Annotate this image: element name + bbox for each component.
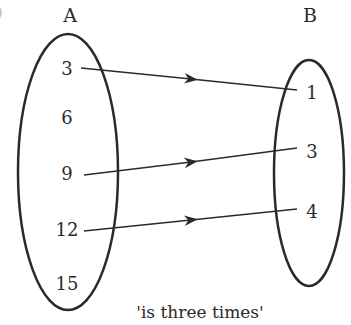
set-b-element: 4 [306,201,317,222]
set-b-label: B [303,4,317,26]
set-a-element: 12 [56,219,79,240]
set-a-element: 9 [61,163,72,184]
set-b-element: 3 [306,141,317,162]
set-a-element: 3 [61,58,72,79]
relation-label: 'is three times' [136,302,264,322]
cropped-fragment [0,6,1,20]
mapping-arrow-3-to-1 [81,68,297,90]
set-a-element: 15 [56,273,79,294]
set-a-element: 6 [61,107,72,128]
set-b-element: 1 [306,82,317,103]
mapping-diagram: A B 3 6 9 12 15 1 3 4 'is three times' [0,0,351,325]
set-a-label: A [62,4,77,26]
mapping-arrow-9-to-3 [84,148,297,175]
